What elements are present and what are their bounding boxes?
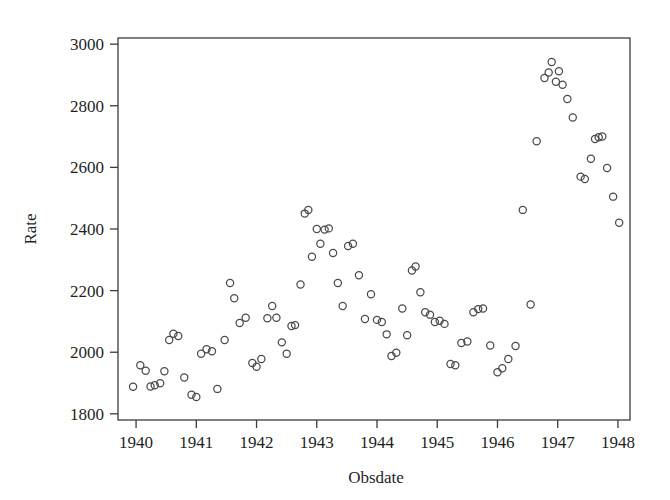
data-point: [264, 315, 271, 322]
data-point: [258, 355, 265, 362]
data-point: [339, 302, 346, 309]
data-point: [297, 281, 304, 288]
data-point: [242, 314, 249, 321]
data-point: [129, 383, 136, 390]
data-point: [142, 367, 149, 374]
data-point: [494, 369, 501, 376]
data-point: [361, 315, 368, 322]
data-point: [317, 240, 324, 247]
x-tick-label: 1941: [179, 433, 213, 452]
x-axis-tick-labels: 194019411942194319441945194619471948: [119, 433, 635, 452]
data-point: [431, 318, 438, 325]
data-point: [383, 331, 390, 338]
data-point: [533, 138, 540, 145]
data-point: [505, 355, 512, 362]
x-tick-label: 1947: [541, 433, 576, 452]
data-point: [569, 114, 576, 121]
data-point: [226, 279, 233, 286]
data-point: [604, 164, 611, 171]
data-point: [236, 319, 243, 326]
data-point: [273, 314, 280, 321]
data-point: [355, 272, 362, 279]
data-point: [487, 342, 494, 349]
data-point: [221, 336, 228, 343]
x-tick-label: 1940: [119, 433, 153, 452]
data-point: [479, 305, 486, 312]
data-point: [269, 302, 276, 309]
x-tick-label: 1942: [240, 433, 274, 452]
y-axis-ticks: [110, 44, 118, 414]
data-point: [214, 385, 221, 392]
data-point: [231, 295, 238, 302]
data-point: [555, 68, 562, 75]
data-point: [278, 339, 285, 346]
data-point: [325, 225, 332, 232]
data-point: [308, 253, 315, 260]
data-point: [519, 206, 526, 213]
data-point: [404, 332, 411, 339]
x-axis-ticks: [136, 420, 618, 428]
data-point: [334, 279, 341, 286]
data-point: [452, 362, 459, 369]
data-point-series: [129, 58, 622, 400]
x-tick-label: 1944: [360, 433, 395, 452]
y-tick-label: 2800: [70, 97, 104, 116]
plot-frame: [118, 38, 630, 420]
y-tick-label: 1800: [70, 405, 104, 424]
data-point: [367, 291, 374, 298]
y-tick-label: 2000: [70, 343, 104, 362]
data-point: [313, 225, 320, 232]
data-point: [559, 81, 566, 88]
data-point: [548, 58, 555, 65]
y-axis-title: Rate: [21, 213, 40, 244]
y-tick-label: 2600: [70, 158, 104, 177]
y-axis-tick-labels: 1800200022002400260028003000: [70, 35, 104, 424]
y-tick-label: 2200: [70, 282, 104, 301]
data-point: [499, 365, 506, 372]
x-tick-label: 1946: [480, 433, 514, 452]
x-tick-label: 1948: [601, 433, 635, 452]
data-point: [447, 360, 454, 367]
data-point: [417, 289, 424, 296]
x-tick-label: 1943: [300, 433, 334, 452]
data-point: [161, 368, 168, 375]
data-point: [587, 155, 594, 162]
plot-canvas: 194019411942194319441945194619471948 180…: [0, 0, 670, 500]
data-point: [616, 219, 623, 226]
data-point: [545, 69, 552, 76]
x-tick-label: 1945: [420, 433, 454, 452]
data-point: [512, 342, 519, 349]
scatter-plot-figure: 194019411942194319441945194619471948 180…: [0, 0, 670, 500]
y-tick-label: 2400: [70, 220, 104, 239]
y-tick-label: 3000: [70, 35, 104, 54]
data-point: [399, 305, 406, 312]
data-point: [181, 374, 188, 381]
x-axis-title: Obsdate: [348, 468, 404, 487]
data-point: [527, 301, 534, 308]
data-point: [329, 249, 336, 256]
data-point: [564, 95, 571, 102]
data-point: [610, 193, 617, 200]
data-point: [283, 350, 290, 357]
